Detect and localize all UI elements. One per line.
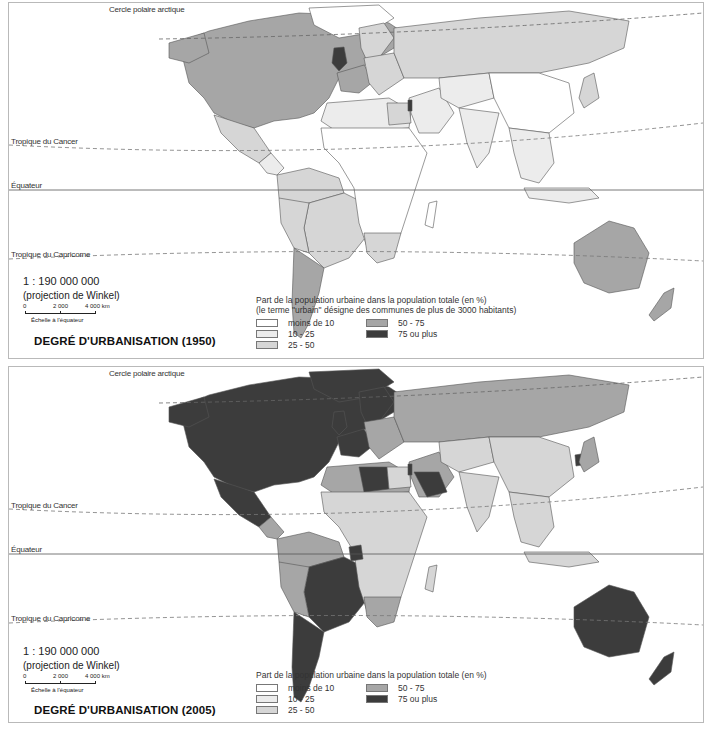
region-madagascar [425, 201, 437, 228]
legend-item-75-plus: 75 ou plus [366, 328, 476, 339]
scale-tick-0: 0 [23, 303, 26, 309]
tropic-of-capricorn-label: Tropique du Capricorne [11, 250, 90, 259]
legend-swatch [256, 319, 278, 327]
legend: Part de la population urbaine dans la po… [256, 670, 487, 715]
region-libya [359, 467, 389, 492]
legend-label: 10 - 25 [288, 329, 314, 339]
legend-swatch [366, 695, 388, 703]
legend-item-lt10: moins de 10 [256, 317, 366, 328]
legend-label: 75 ou plus [398, 694, 437, 704]
legend-swatch [366, 319, 388, 327]
legend-label: moins de 10 [288, 683, 334, 693]
region-south-africa [364, 597, 401, 627]
map-title: DEGRÉ D'URBANISATION (2005) [34, 704, 216, 716]
legend-item-50-75: 50 - 75 [366, 682, 476, 693]
scale-caption: Échelle à l'équateur [31, 687, 84, 693]
region-new-zealand [649, 652, 674, 685]
legend-item-25-50: 25 - 50 [256, 704, 366, 715]
legend-swatch [256, 341, 278, 349]
legend-item-lt10: moins de 10 [256, 682, 366, 693]
legend-label: moins de 10 [288, 318, 334, 328]
region-egypt [387, 467, 411, 489]
region-japan [579, 73, 599, 108]
tropic-of-cancer-label: Tropique du Cancer [11, 501, 78, 510]
legend-label: 10 - 25 [288, 694, 314, 704]
scale-tick-2000: 2 000 [53, 673, 68, 679]
legend-item-75-plus: 75 ou plus [366, 693, 476, 704]
legend-label: 25 - 50 [288, 340, 314, 350]
projection-label: (projection de Winkel) [23, 660, 133, 671]
scale-tick-0: 0 [23, 673, 26, 679]
region-china [489, 437, 574, 497]
scale-ratio: 1 : 190 000 000 [23, 275, 133, 287]
legend-subtitle: (le terme "urbain" désigne des communes … [256, 305, 516, 315]
region-madagascar [425, 565, 437, 592]
legend-title: Part de la population urbaine dans la po… [256, 295, 516, 305]
scale-caption: Échelle à l'équateur [31, 317, 84, 323]
region-india [459, 472, 499, 532]
legend-swatch [256, 695, 278, 703]
map-panel-2005: Cercle polaire arctique Tropique du Canc… [8, 366, 704, 723]
legend-label: 50 - 75 [398, 683, 424, 693]
legend-label: 25 - 50 [288, 705, 314, 715]
legend-title: Part de la population urbaine dans la po… [256, 670, 487, 680]
region-israel [408, 464, 412, 475]
region-india [459, 108, 499, 168]
region-egypt [387, 103, 411, 125]
legend-swatch [256, 330, 278, 338]
map-panel-1950: Cercle polaire arctique Tropique du Canc… [8, 2, 704, 359]
equator-label: Équateur [11, 545, 42, 554]
region-gabon [349, 545, 363, 561]
projection-label: (projection de Winkel) [23, 290, 133, 301]
legend-swatch [366, 330, 388, 338]
scale-block: 1 : 190 000 000 (projection de Winkel) 0… [23, 275, 133, 325]
map-title: DEGRÉ D'URBANISATION (1950) [34, 335, 216, 347]
legend-label: 50 - 75 [398, 318, 424, 328]
region-new-zealand [649, 288, 674, 321]
scale-bar: 0 2 000 4 000 km Échelle à l'équateur [23, 303, 133, 325]
region-southeast-asia [509, 492, 554, 547]
legend-item-50-75: 50 - 75 [366, 317, 476, 328]
tropic-of-capricorn-label: Tropique du Capricorne [11, 614, 90, 623]
legend-swatch [256, 706, 278, 714]
legend-swatch [366, 684, 388, 692]
arctic-circle-label: Cercle polaire arctique [109, 5, 184, 14]
region-peru-bolivia [279, 562, 309, 617]
tropic-of-cancer-label: Tropique du Cancer [11, 137, 78, 146]
region-israel [408, 100, 412, 111]
region-japan [579, 437, 599, 472]
region-south-africa [364, 233, 401, 263]
region-southeast-asia [509, 128, 554, 183]
legend: Part de la population urbaine dans la po… [256, 295, 516, 350]
arctic-circle-label: Cercle polaire arctique [109, 369, 184, 378]
scale-tick-4000: 4 000 km [85, 673, 110, 679]
scale-tick-4000: 4 000 km [85, 303, 110, 309]
scale-block: 1 : 190 000 000 (projection de Winkel) 0… [23, 645, 133, 695]
equator-label: Équateur [11, 181, 42, 190]
legend-item-25-50: 25 - 50 [256, 339, 366, 350]
legend-label: 75 ou plus [398, 329, 437, 339]
legend-item-10-25: 10 - 25 [256, 693, 366, 704]
scale-tick-2000: 2 000 [53, 303, 68, 309]
region-china [489, 73, 574, 133]
region-peru-bolivia [279, 198, 309, 253]
scale-bar: 0 2 000 4 000 km Échelle à l'équateur [23, 673, 133, 695]
legend-swatch [256, 684, 278, 692]
legend-item-10-25: 10 - 25 [256, 328, 366, 339]
scale-ratio: 1 : 190 000 000 [23, 645, 133, 657]
